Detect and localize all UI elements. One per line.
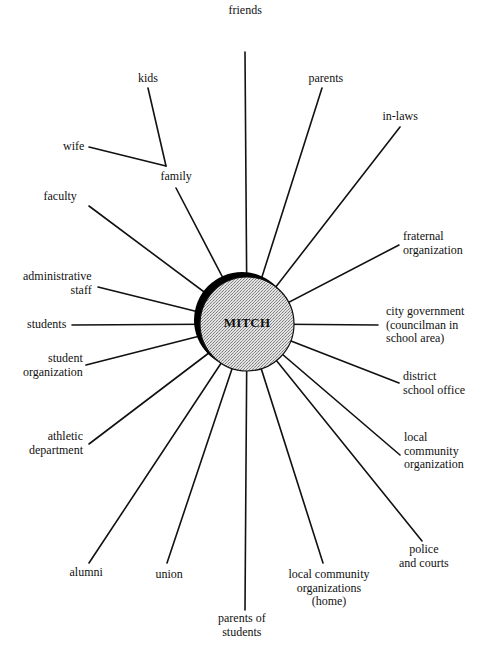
node-label-kids: kids	[138, 72, 158, 86]
node-label-parents: parents	[309, 72, 344, 86]
node-label-line: (home)	[289, 595, 370, 609]
node-label-wife: wife	[63, 140, 84, 154]
node-label-line: parents	[309, 72, 344, 86]
node-label-family: family	[161, 170, 192, 184]
node-label-line: organization	[404, 458, 464, 472]
node-label-line: police	[399, 543, 449, 557]
node-label-line: administrative	[23, 270, 92, 284]
node-label-line: organizations	[289, 582, 370, 596]
node-label-district-school-office: districtschool office	[403, 370, 465, 397]
node-label-line: community	[404, 445, 464, 459]
node-label-city-government: city government(councilman inschool area…	[386, 305, 464, 346]
node-label-local-community-organizations-home: local communityorganizations(home)	[289, 568, 370, 609]
node-label-line: fraternal	[403, 230, 463, 244]
node-label-police-and-courts: policeand courts	[399, 543, 449, 570]
node-label-line: students	[218, 626, 266, 640]
node-label-student-organization: studentorganization	[23, 352, 83, 379]
node-label-line: parents of	[218, 612, 266, 626]
node-label-administrative-staff: administrativestaff	[23, 270, 92, 297]
node-label-friends: friends	[229, 4, 262, 18]
node-label-line: faculty	[44, 190, 77, 204]
node-label-line: district	[403, 370, 465, 384]
node-label-line: in-laws	[383, 110, 418, 124]
node-label-line: friends	[229, 4, 262, 18]
node-label-line: department	[29, 444, 83, 458]
node-label-line: kids	[138, 72, 158, 86]
node-label-line: athletic	[29, 430, 83, 444]
node-label-parents-of-students: parents ofstudents	[218, 612, 266, 639]
center-node-label: MITCH	[224, 315, 271, 331]
node-label-in-laws: in-laws	[383, 110, 418, 124]
node-label-alumni: alumni	[70, 566, 103, 580]
relationship-network-diagram: MITCH friendsparentsin-lawsfraternalorga…	[0, 0, 489, 667]
node-label-line: school area)	[386, 332, 464, 346]
node-label-line: wife	[63, 140, 84, 154]
node-label-fraternal-organization: fraternalorganization	[403, 230, 463, 257]
node-label-local-community-organization: localcommunityorganization	[404, 431, 464, 472]
node-label-line: staff	[23, 284, 92, 298]
node-label-line: union	[156, 568, 183, 582]
node-label-line: school office	[403, 384, 465, 398]
node-label-line: student	[23, 352, 83, 366]
node-label-union: union	[156, 568, 183, 582]
node-label-line: local	[404, 431, 464, 445]
node-label-students: students	[27, 318, 66, 332]
node-label-line: city government	[386, 305, 464, 319]
node-label-line: alumni	[70, 566, 103, 580]
connection-line-kids	[148, 88, 166, 166]
node-label-line: local community	[289, 568, 370, 582]
node-label-line: organization	[403, 244, 463, 258]
node-label-line: family	[161, 170, 192, 184]
node-label-faculty: faculty	[44, 190, 77, 204]
node-label-line: organization	[23, 366, 83, 380]
node-label-line: (councilman in	[386, 319, 464, 333]
connection-line-wife	[89, 147, 166, 166]
node-label-line: and courts	[399, 557, 449, 571]
node-label-athletic-department: athleticdepartment	[29, 430, 83, 457]
node-label-line: students	[27, 318, 66, 332]
